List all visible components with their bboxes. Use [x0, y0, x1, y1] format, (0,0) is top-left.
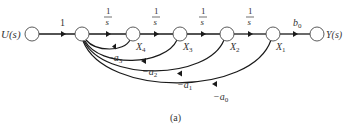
svg-text:s: s: [248, 17, 252, 27]
signal-flow-graph: U(s) Y(s) 1 1 s 1 s 1 s 1 s b0 X4 X3 X2 …: [0, 0, 350, 140]
node-x4: [126, 27, 140, 41]
svg-text:1: 1: [154, 6, 159, 16]
figure-caption: (a): [170, 112, 181, 124]
feedback-arc-a3: [86, 40, 130, 49]
arrow-icon: [154, 31, 159, 37]
node-x2: [220, 27, 234, 41]
integrator-gain-4: 1 s: [246, 6, 254, 27]
svg-text:s: s: [154, 17, 158, 27]
integrator-gain-1: 1 s: [104, 6, 112, 27]
arrow-icon: [106, 31, 111, 37]
node-x3: [173, 27, 187, 41]
arrow-icon: [201, 31, 206, 37]
feedback-label-a2: −a2: [142, 66, 158, 79]
integrator-gain-3: 1 s: [199, 6, 207, 27]
integrator-gain-2: 1 s: [152, 6, 160, 27]
node-x1: [266, 27, 280, 41]
gain-b0: b0: [293, 17, 302, 30]
state-label-x3: X3: [182, 41, 193, 54]
arrow-icon: [212, 81, 217, 87]
svg-text:s: s: [201, 17, 205, 27]
gain-u-e: 1: [60, 17, 65, 28]
svg-text:1: 1: [248, 6, 253, 16]
node-summing: [75, 27, 89, 41]
state-label-x1: X1: [275, 41, 286, 54]
svg-text:1: 1: [106, 6, 111, 16]
feedback-label-a0: −a0: [213, 91, 229, 104]
output-label: Y(s): [326, 29, 343, 41]
arrow-icon: [248, 31, 253, 37]
input-label: U(s): [1, 28, 21, 41]
state-label-x2: X2: [229, 41, 240, 54]
arrow-icon: [177, 71, 182, 77]
arrow-icon: [61, 31, 66, 37]
arrow-icon: [293, 31, 298, 37]
svg-text:s: s: [106, 17, 110, 27]
feedback-label-a1: −a1: [177, 79, 193, 92]
node-output: [310, 27, 324, 41]
node-input: [25, 27, 39, 41]
svg-text:1: 1: [201, 6, 206, 16]
state-label-x4: X4: [135, 41, 146, 54]
